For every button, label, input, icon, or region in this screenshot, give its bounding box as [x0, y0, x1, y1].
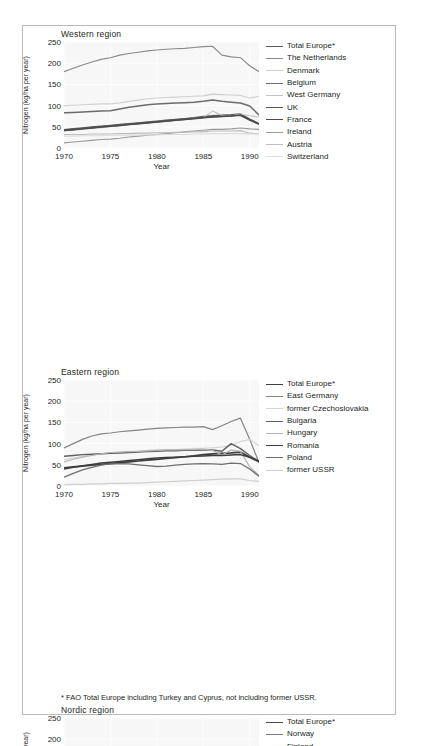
legend-item[interactable]: East Germany — [266, 390, 394, 402]
legend-line-swatch — [266, 433, 283, 434]
x-tick-label: 1980 — [148, 152, 166, 161]
plot-area-nordic — [64, 718, 259, 746]
legend-line-swatch — [266, 95, 283, 96]
chart-title-western: Western region — [61, 29, 121, 39]
y-tick-label: 250 — [48, 376, 61, 385]
legend-item[interactable]: France — [266, 114, 394, 126]
legend-line-swatch — [266, 396, 283, 397]
x-ticks-western: 19701975198019851990 — [64, 150, 259, 162]
chart-panel-eastern: Eastern region Nitrogen (kg/ha per year)… — [23, 364, 395, 529]
x-tick-label: 1975 — [102, 490, 120, 499]
legend-line-swatch — [266, 408, 283, 409]
legend-label: Hungary — [287, 429, 317, 437]
y-tick-label: 200 — [48, 59, 61, 68]
legend-item[interactable]: Austria — [266, 138, 394, 150]
legend-label: Total Europe* — [287, 718, 335, 726]
legend-line-swatch — [266, 734, 283, 735]
legend-label: West Germany — [287, 91, 340, 99]
data-line — [64, 46, 259, 71]
legend-label: Ireland — [287, 128, 311, 136]
legend-label: Bulgaria — [287, 417, 316, 425]
x-ticks-eastern: 19701975198019851990 — [64, 488, 259, 500]
legend-line-swatch — [266, 119, 283, 120]
y-tick-label: 100 — [48, 439, 61, 448]
legend-line-swatch — [266, 445, 283, 446]
legend-item[interactable]: Total Europe* — [266, 716, 394, 728]
y-axis-label-western: Nitrogen (kg/ha per year) — [22, 42, 29, 148]
legend-item[interactable]: Ireland — [266, 126, 394, 138]
legend-label: Total Europe* — [287, 42, 335, 50]
legend-item[interactable]: Denmark — [266, 65, 394, 77]
data-line — [64, 115, 259, 130]
plot-area-eastern — [64, 380, 259, 486]
legend-label: The Netherlands — [287, 54, 346, 62]
legend-label: Denmark — [287, 67, 319, 75]
y-axis-label-nordic: Nitrogen (kg/ha per year) — [22, 718, 29, 746]
legend-label: Total Europe* — [287, 380, 335, 388]
legend-label: former Czechoslovakia — [287, 405, 368, 413]
legend-label: France — [287, 116, 312, 124]
x-tick-label: 1990 — [241, 152, 259, 161]
legend-item[interactable]: Total Europe* — [266, 40, 394, 52]
legend-item[interactable]: Bulgaria — [266, 415, 394, 427]
legend-line-swatch — [266, 722, 283, 723]
y-ticks-eastern: 050100150200250 — [36, 380, 61, 486]
legend-line-swatch — [266, 107, 283, 108]
legend-item[interactable]: Finland — [266, 741, 394, 746]
legend-label: UK — [287, 104, 298, 112]
x-tick-label: 1985 — [194, 490, 212, 499]
legend-label: Romania — [287, 442, 319, 450]
legend-line-swatch — [266, 156, 283, 157]
chart-panel-nordic: Nordic region Nitrogen (kg/ha per year) … — [23, 702, 395, 746]
legend-item[interactable]: former USSR — [266, 464, 394, 476]
legend-line-swatch — [266, 58, 283, 59]
legend-line-swatch — [266, 421, 283, 422]
plot-lines-nordic — [64, 718, 259, 746]
legend-western: Total Europe*The NetherlandsDenmarkBelgi… — [266, 40, 394, 163]
figure-footnote: * FAO Total Europe including Turkey and … — [61, 693, 317, 702]
legend-eastern: Total Europe*East Germanyformer Czechosl… — [266, 378, 394, 476]
legend-label: Switzerland — [287, 153, 328, 161]
plot-area-western — [64, 42, 259, 148]
x-tick-label: 1980 — [148, 490, 166, 499]
x-tick-label: 1970 — [55, 490, 73, 499]
y-tick-label: 200 — [48, 397, 61, 406]
y-tick-label: 250 — [48, 714, 61, 723]
x-tick-label: 1975 — [102, 152, 120, 161]
x-tick-label: 1985 — [194, 152, 212, 161]
legend-line-swatch — [266, 384, 283, 385]
legend-label: former USSR — [287, 466, 335, 474]
legend-item[interactable]: former Czechoslovakia — [266, 403, 394, 415]
legend-label: East Germany — [287, 392, 338, 400]
legend-item[interactable]: UK — [266, 101, 394, 113]
y-ticks-nordic: 050100150200250 — [36, 718, 61, 746]
figure-frame: Western region Nitrogen (kg/ha per year)… — [22, 25, 396, 715]
legend-line-swatch — [266, 132, 283, 133]
y-tick-label: 250 — [48, 38, 61, 47]
x-tick-label: 1970 — [55, 152, 73, 161]
legend-item[interactable]: Total Europe* — [266, 378, 394, 390]
legend-line-swatch — [266, 457, 283, 458]
y-tick-label: 200 — [48, 735, 61, 744]
legend-item[interactable]: Norway — [266, 728, 394, 740]
y-ticks-western: 050100150200250 — [36, 42, 61, 148]
data-line — [64, 418, 259, 463]
chart-panel-western: Western region Nitrogen (kg/ha per year)… — [23, 26, 395, 191]
y-tick-label: 50 — [52, 460, 61, 469]
chart-title-eastern: Eastern region — [61, 367, 119, 377]
legend-line-swatch — [266, 46, 283, 47]
legend-item[interactable]: West Germany — [266, 89, 394, 101]
legend-line-swatch — [266, 144, 283, 145]
legend-label: Norway — [287, 730, 314, 738]
x-tick-label: 1990 — [241, 490, 259, 499]
legend-item[interactable]: Switzerland — [266, 151, 394, 163]
legend-item[interactable]: Poland — [266, 452, 394, 464]
legend-item[interactable]: Belgium — [266, 77, 394, 89]
legend-item[interactable]: Hungary — [266, 427, 394, 439]
legend-line-swatch — [266, 70, 283, 71]
legend-item[interactable]: Romania — [266, 439, 394, 451]
legend-item[interactable]: The Netherlands — [266, 52, 394, 64]
legend-line-swatch — [266, 83, 283, 84]
y-axis-label-eastern: Nitrogen (kg/ha per year) — [22, 380, 29, 486]
legend-label: Belgium — [287, 79, 316, 87]
